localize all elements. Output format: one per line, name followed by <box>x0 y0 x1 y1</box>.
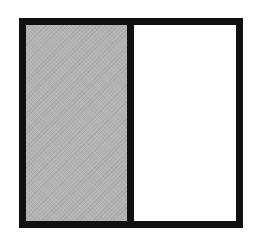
unshaded-part <box>134 25 236 221</box>
fraction-diagram-canvas <box>0 0 253 235</box>
fraction-square <box>19 18 243 228</box>
divider-line <box>127 25 134 221</box>
shaded-part <box>26 25 127 221</box>
